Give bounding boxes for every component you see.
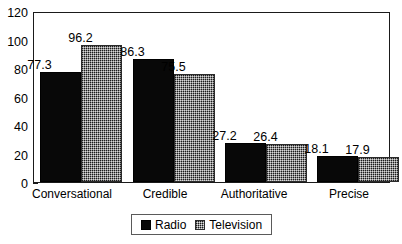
bar-radio-authoritative [225,143,266,182]
value-label-radio-conversational: 77.3 [19,59,60,72]
value-label-television-authoritative: 26.4 [245,131,286,144]
y-tick-label: 60 [0,93,28,106]
value-label-radio-authoritative: 27.2 [204,130,245,143]
value-label-television-conversational: 96.2 [60,32,101,45]
x-category-label-authoritative: Authoritative [201,188,307,200]
x-category-label-credible: Credible [117,188,213,200]
bar-chart: 120 100 80 60 40 20 0 [0,0,402,244]
value-label-television-credible: 75.5 [153,61,194,74]
x-category-label-conversational: Conversational [17,188,127,200]
value-label-radio-credible: 86.3 [112,46,153,59]
bar-radio-conversational [40,72,81,182]
legend-entry-television[interactable]: Television [195,219,262,231]
y-tick-label: 20 [0,150,28,163]
y-tick-label: 120 [0,7,28,20]
legend-label-television: Television [209,219,262,231]
y-tick-mark [33,183,38,184]
bar-television-conversational [81,45,122,182]
legend-swatch-radio-icon [141,220,151,230]
y-tick-label: 100 [0,36,28,49]
bar-radio-credible [133,59,174,182]
value-label-television-precise: 17.9 [337,144,378,157]
legend-entry-radio[interactable]: Radio [141,219,186,231]
legend-swatch-television-icon [195,220,205,230]
y-tick-label: 40 [0,121,28,134]
chart-legend: Radio Television [131,214,272,235]
bar-television-credible [174,74,215,182]
bar-radio-precise [317,156,358,182]
x-category-label-precise: Precise [302,188,396,200]
legend-label-radio: Radio [155,219,186,231]
bar-television-precise [358,157,399,183]
value-label-radio-precise: 18.1 [296,143,337,156]
